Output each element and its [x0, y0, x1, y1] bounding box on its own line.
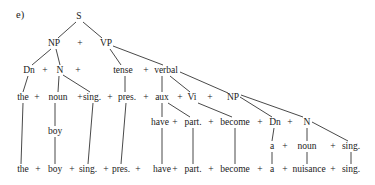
tree-node-n2: N — [304, 117, 311, 127]
tree-node-part1: part. — [184, 117, 201, 127]
figure-label: e) — [16, 9, 25, 21]
tree-edge — [198, 103, 232, 117]
tree-node-have2: have — [153, 164, 171, 174]
tree-node-tense: tense — [113, 65, 133, 75]
tree-node-the1: the — [17, 92, 29, 102]
plus-operator: + — [257, 117, 262, 127]
tree-edge — [110, 49, 121, 65]
plus-operator: + — [330, 164, 335, 174]
tree-edge — [312, 122, 348, 141]
tree-node-sing4: sing. — [342, 164, 360, 174]
plus-operator: + — [208, 117, 213, 127]
tree-node-the2: the — [17, 164, 29, 174]
tree-edge — [23, 76, 28, 92]
tree-edge — [21, 103, 23, 164]
plus-operator: + — [35, 164, 40, 174]
plus-operator: + — [77, 92, 82, 102]
tree-edge — [241, 95, 303, 117]
tree-node-part2: part. — [184, 164, 201, 174]
tree-node-verbal: verbal — [154, 65, 178, 75]
tree-node-aux: aux — [155, 92, 169, 102]
tree-edge — [121, 103, 126, 164]
tree-node-have1: have — [151, 117, 169, 127]
tree-edge — [56, 49, 60, 65]
plus-operator: + — [172, 117, 177, 127]
tree-edge — [170, 76, 190, 92]
tree-edge — [113, 46, 163, 65]
tree-edge — [83, 22, 102, 38]
tree-node-boy2: boy — [48, 164, 63, 174]
tree-node-s: S — [76, 11, 81, 21]
tree-node-noun2: noun — [298, 141, 317, 151]
plus-operator: + — [208, 164, 213, 174]
tree-node-n1: N — [57, 65, 64, 75]
tree-node-a1: a — [270, 141, 275, 151]
plus-operator: + — [77, 38, 82, 48]
tree-edge — [88, 103, 93, 164]
plus-operator: + — [103, 164, 108, 174]
tree-node-become1: become — [220, 117, 250, 127]
plus-operator: + — [257, 164, 262, 174]
tree-node-np1: NP — [48, 38, 60, 48]
tree-node-vp: VP — [100, 38, 112, 48]
tree-node-boy1: boy — [48, 126, 63, 136]
plus-operator: + — [282, 164, 287, 174]
tree-node-nuisance: nuisance — [292, 164, 325, 174]
plus-operator: + — [143, 92, 148, 102]
plus-operator: + — [69, 164, 74, 174]
plus-operator: + — [287, 117, 292, 127]
tree-node-pres1: pres. — [118, 92, 136, 102]
plus-operator: + — [282, 141, 287, 151]
plus-operator: + — [177, 92, 182, 102]
plus-operator: + — [143, 65, 148, 75]
plus-operator: + — [172, 164, 177, 174]
plus-operator: + — [107, 92, 112, 102]
tree-node-pres2: pres. — [112, 164, 130, 174]
tree-edge — [63, 75, 90, 92]
tree-node-dn2: Dn — [269, 117, 281, 127]
tree-node-sing3: sing. — [79, 164, 97, 174]
tree-edge — [168, 103, 190, 117]
plus-operator: + — [330, 141, 335, 151]
tree-edge — [58, 76, 59, 92]
tree-node-a2: a — [270, 164, 275, 174]
phrase-structure-tree: e) SNP+VPDn+N+tense+verbalthe+noun+sing.… — [0, 0, 375, 185]
tree-node-noun1: noun — [49, 92, 68, 102]
tree-edge — [272, 128, 274, 141]
plus-operator: + — [207, 92, 212, 102]
tree-node-sing1: sing. — [83, 92, 101, 102]
tree-node-vi: Vi — [188, 92, 197, 102]
tree-node-dn1: Dn — [23, 65, 35, 75]
tree-node-np2: NP — [227, 92, 239, 102]
plus-operator: + — [75, 65, 80, 75]
tree-edge — [32, 49, 51, 65]
tree-nodes: SNP+VPDn+N+tense+verbalthe+noun+sing.+pr… — [17, 11, 360, 174]
plus-operator: + — [34, 92, 39, 102]
plus-operator: + — [42, 65, 47, 75]
tree-edge — [58, 22, 76, 38]
tree-node-become2: become — [220, 164, 250, 174]
tree-node-sing2: sing. — [342, 141, 360, 151]
plus-operator: + — [135, 164, 140, 174]
